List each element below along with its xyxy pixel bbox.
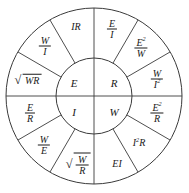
inner-quadrant-power: W <box>109 107 118 118</box>
fraction-denominator: E <box>38 146 50 156</box>
inner-quadrant-current: I <box>72 107 76 118</box>
sector-formula-e-eq-ir: IR <box>71 22 80 32</box>
fraction-denominator: I <box>39 47 51 57</box>
sector-formula-i-eq-w-over-e: W E <box>38 135 50 156</box>
sector-formula-e-eq-sqrt-wr: √ WR <box>15 74 42 87</box>
radical-sign-icon: √ <box>66 158 73 171</box>
sector-formula-w-eq-ei: EI <box>112 159 121 169</box>
fraction-denominator: W <box>134 49 147 59</box>
radical-WR: √ WR <box>15 74 42 87</box>
sector-formula-r-eq-e-over-i: E I <box>107 19 117 40</box>
inner-label-E: E <box>71 77 78 89</box>
product-factor: R <box>139 137 145 148</box>
fraction-denominator: R <box>76 166 88 176</box>
fraction-W-over-I2: W I2 <box>151 69 163 90</box>
product-I2R: I2R <box>133 137 146 148</box>
fraction-denominator: R <box>150 114 163 124</box>
radicand: W R <box>74 153 90 176</box>
wheel-graphics <box>0 0 189 193</box>
fraction-E-over-I: E I <box>107 19 117 40</box>
fraction-denominator: R <box>25 114 35 124</box>
formula-text-IR: IR <box>71 21 80 32</box>
fraction-denominator: I <box>107 30 117 40</box>
fraction-W-over-R: W R <box>76 155 88 176</box>
formula-text-EI: EI <box>112 158 121 169</box>
inner-quadrant-resistance: R <box>111 78 118 89</box>
denominator-exponent: 2 <box>157 77 160 84</box>
inner-quadrant-voltage: E <box>71 78 78 89</box>
fraction-denominator: I2 <box>151 80 163 90</box>
fraction-E2-over-W: E2 W <box>134 38 147 59</box>
fraction-W-over-E: W E <box>38 135 50 156</box>
sector-formula-w-eq-e2-over-r: E2 R <box>150 103 163 124</box>
ohms-law-wheel-diagram: E R I W IR W I √ WR E I E2 <box>0 0 189 193</box>
fraction-E2-over-R: E2 R <box>150 103 163 124</box>
sector-formula-i-eq-sqrt-w-over-r: √ W R <box>66 153 91 176</box>
sector-formula-w-eq-i2r: I2R <box>133 138 146 148</box>
inner-label-I: I <box>72 106 76 118</box>
fraction-W-over-I: W I <box>39 36 51 57</box>
inner-label-W: W <box>109 106 118 118</box>
radical-sign-icon: √ <box>15 74 22 87</box>
sector-formula-i-eq-e-over-r: E R <box>25 103 35 124</box>
radicand: WR <box>23 74 41 86</box>
sector-formula-r-eq-w-over-i2: W I2 <box>151 69 163 90</box>
numerator-exponent: 2 <box>159 100 162 107</box>
numerator-exponent: 2 <box>143 35 146 42</box>
inner-label-R: R <box>111 77 118 89</box>
sector-formula-r-eq-e2-over-w: E2 W <box>134 38 147 59</box>
radical-W-over-R: √ W R <box>66 153 91 176</box>
fraction-E-over-R: E R <box>25 103 35 124</box>
sector-formula-e-eq-w-over-i: W I <box>39 36 51 57</box>
